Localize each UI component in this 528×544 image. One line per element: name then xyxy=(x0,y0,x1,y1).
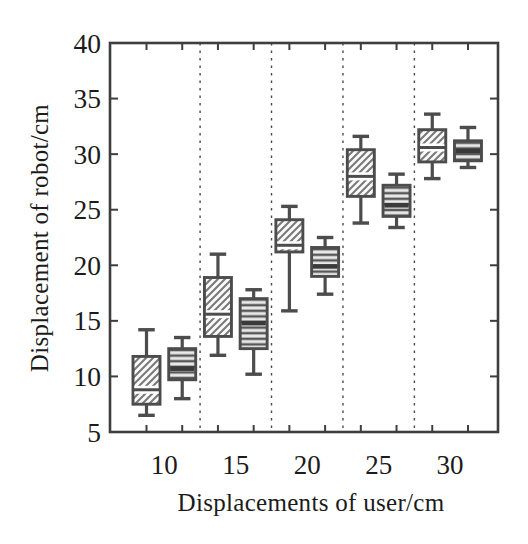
x-tick-label-20: 20 xyxy=(294,450,321,480)
y-axis-title: Displacement of robot/cm xyxy=(26,104,54,372)
iqr-box xyxy=(133,356,160,404)
box-horizontal-15 xyxy=(240,290,267,374)
x-axis-ticks: 1015202530 xyxy=(147,43,468,480)
x-tick-label-30: 30 xyxy=(437,450,464,480)
y-tick-label-10: 10 xyxy=(74,361,102,392)
x-tick-label-10: 10 xyxy=(151,450,178,480)
iqr-box xyxy=(312,248,339,277)
box-horizontal-10 xyxy=(169,338,196,399)
box-diagonal-20 xyxy=(276,206,303,310)
y-tick-label-15: 15 xyxy=(74,305,102,336)
box-diagonal-15 xyxy=(204,254,231,355)
horizontal-hatch-boxes xyxy=(169,127,482,398)
box-horizontal-25 xyxy=(383,174,410,227)
y-tick-label-35: 35 xyxy=(74,83,102,114)
x-tick-label-15: 15 xyxy=(222,450,249,480)
box-diagonal-30 xyxy=(419,114,446,178)
x-axis-title: Displacements of user/cm xyxy=(178,489,445,517)
box-diagonal-10 xyxy=(133,330,160,416)
box-horizontal-20 xyxy=(312,238,339,295)
iqr-box xyxy=(169,349,196,380)
box-diagonal-25 xyxy=(347,136,374,223)
box-horizontal-30 xyxy=(454,127,481,167)
boxplot-svg: 5101520253035401015202530 xyxy=(0,0,528,544)
y-tick-label-25: 25 xyxy=(74,194,102,225)
iqr-box xyxy=(204,278,231,337)
y-tick-label-20: 20 xyxy=(74,250,102,281)
y-tick-label-40: 40 xyxy=(74,28,102,59)
y-tick-label-5: 5 xyxy=(87,417,101,448)
iqr-box xyxy=(383,185,410,216)
y-tick-label-30: 30 xyxy=(74,139,102,170)
x-tick-label-25: 25 xyxy=(365,450,392,480)
group-separators xyxy=(200,43,414,432)
boxplot-figure: 5101520253035401015202530 Displacement o… xyxy=(0,0,528,544)
